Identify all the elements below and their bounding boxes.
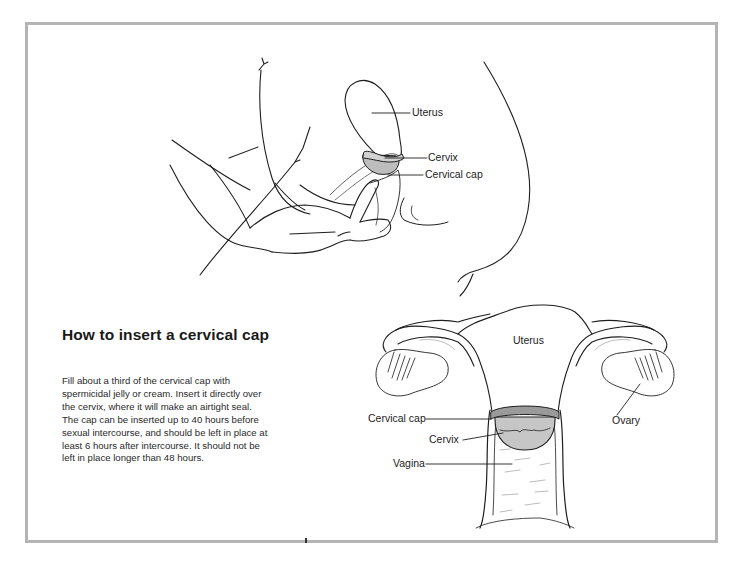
label-cervix-side: Cervix (428, 152, 458, 163)
label-uterus-side: Uterus (412, 107, 443, 118)
label-cervix-front: Cervix (429, 434, 459, 445)
instruction-line: The cap can be inserted up to 40 hours b… (62, 414, 292, 427)
instruction-line: spermicidal jelly or cream. Insert it di… (62, 388, 292, 401)
instruction-line: Fill about a third of the cervical cap w… (62, 375, 292, 388)
label-cervical-cap-side: Cervical cap (425, 169, 483, 180)
instruction-line: sexual intercourse, and should be left i… (62, 427, 292, 440)
instruction-line: least 6 hours after intercourse. It shou… (62, 440, 292, 453)
instruction-text: Fill about a third of the cervical cap w… (62, 375, 292, 465)
label-cervical-cap-front: Cervical cap (368, 413, 426, 424)
instruction-line: the cervix, where it will make an airtig… (62, 401, 292, 414)
instruction-line: left in place longer than 48 hours. (62, 452, 292, 465)
illustrations (0, 0, 748, 565)
label-ovary-front: Ovary (612, 415, 640, 426)
label-vagina-front: Vagina (393, 458, 425, 469)
label-uterus-front: Uterus (513, 335, 544, 346)
section-title: How to insert a cervical cap (62, 326, 269, 344)
